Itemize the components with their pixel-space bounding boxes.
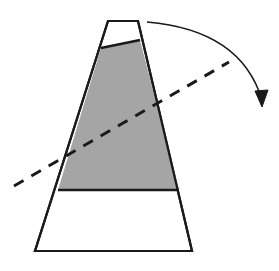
diagram-canvas	[0, 0, 279, 271]
figure-root	[0, 0, 279, 271]
